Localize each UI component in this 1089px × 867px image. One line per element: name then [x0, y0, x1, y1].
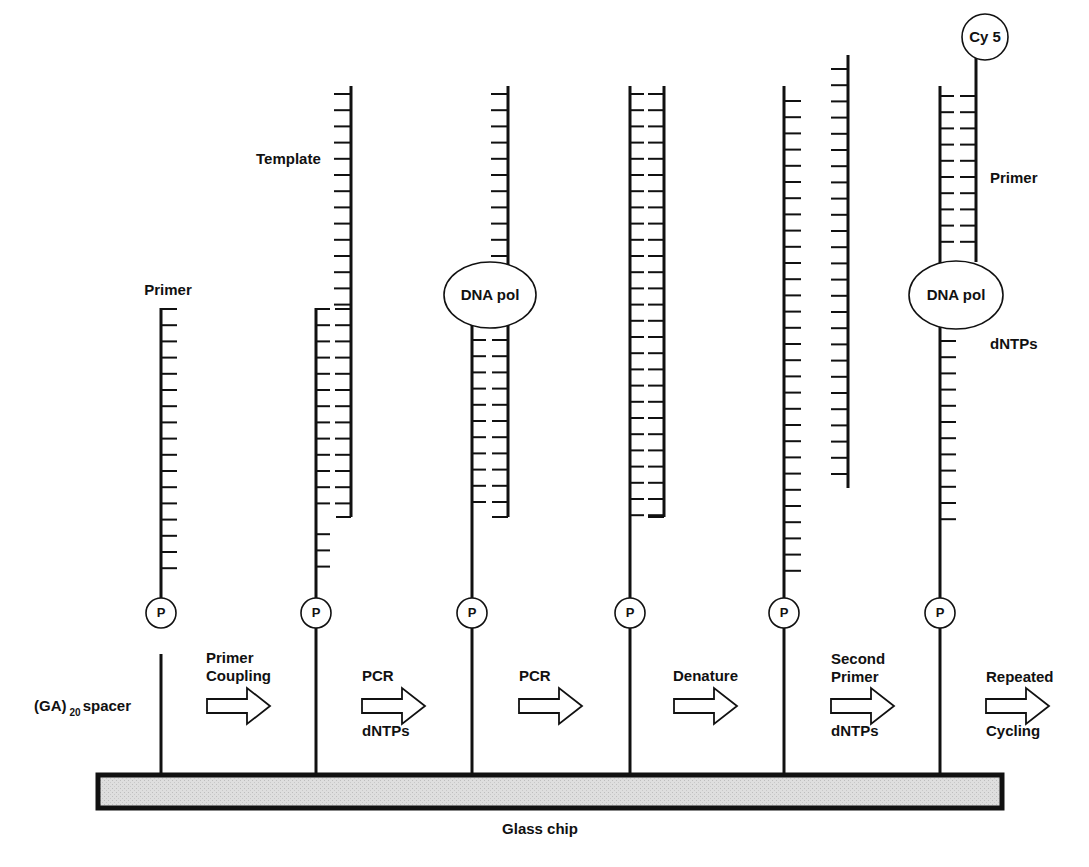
- arrow-label-line: Primer: [831, 668, 885, 686]
- dna-pol-label: DNA pol: [461, 286, 520, 304]
- phosphate-label: P: [936, 604, 945, 622]
- phosphate-label: P: [312, 604, 321, 622]
- glass-chip: [98, 775, 1002, 808]
- arrow-label-line: Second: [831, 650, 885, 668]
- phosphate-label: P: [780, 604, 789, 622]
- arrow-label-cycling: Cycling: [986, 722, 1040, 740]
- step4-construct: [615, 86, 664, 773]
- arrow-label-dntps: dNTPs: [831, 722, 879, 740]
- block-arrow-icon: [986, 688, 1049, 724]
- dna-pol-label: DNA pol: [927, 286, 986, 304]
- process-arrows: [207, 688, 1049, 724]
- arrow-label-pcr: PCR: [519, 667, 551, 685]
- spacer-label: (GA)20spacer: [34, 697, 131, 717]
- primer-label-step6: Primer: [990, 169, 1038, 187]
- arrow-label-denature: Denature: [673, 667, 738, 685]
- primer-label: Primer: [144, 281, 192, 299]
- cy5-label: Cy 5: [969, 28, 1001, 46]
- phosphate-label: P: [626, 604, 635, 622]
- base-pairs: [630, 94, 664, 515]
- step2-construct: [301, 86, 351, 773]
- single-strand-bases: [784, 69, 848, 571]
- arrow-label-repeated: Repeated: [986, 668, 1054, 686]
- step6-construct: [909, 14, 1008, 773]
- block-arrow-icon: [362, 688, 425, 724]
- base-pairs: [316, 94, 351, 567]
- primer-bases: [161, 309, 177, 568]
- arrow-label-dntps: dNTPs: [362, 722, 410, 740]
- block-arrow-icon: [831, 688, 894, 724]
- template-label: Template: [256, 150, 321, 168]
- pcr-on-chip-diagram: [0, 0, 1089, 867]
- spacer-label-suffix: spacer: [83, 697, 131, 714]
- spacer-label-prefix: (GA): [34, 697, 67, 714]
- phosphate-label: P: [157, 604, 166, 622]
- block-arrow-icon: [674, 688, 737, 724]
- block-arrow-icon: [207, 688, 270, 724]
- dntps-label-step6: dNTPs: [990, 335, 1038, 353]
- arrow-label-primer-coupling: PrimerCoupling: [206, 649, 271, 685]
- glass-chip-label: Glass chip: [502, 820, 578, 838]
- arrow-label-pcr: PCR: [362, 667, 394, 685]
- arrow-label-line: Coupling: [206, 667, 271, 685]
- spacer-label-subscript: 20: [70, 707, 81, 718]
- block-arrow-icon: [519, 688, 582, 724]
- arrow-label-line: Primer: [206, 649, 271, 667]
- step1-construct: [146, 308, 177, 773]
- phosphate-label: P: [468, 604, 477, 622]
- arrow-label-second-primer: SecondPrimer: [831, 650, 885, 686]
